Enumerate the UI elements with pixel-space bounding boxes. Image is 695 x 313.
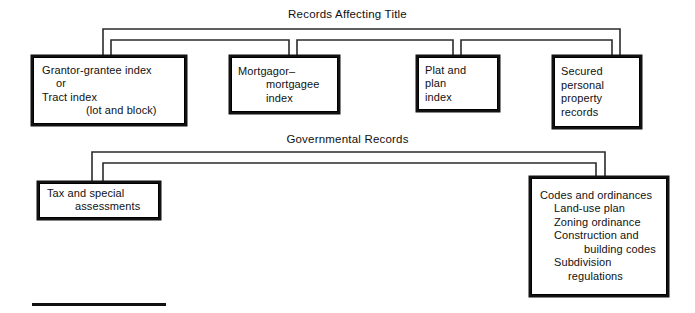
node-line: property: [561, 92, 634, 106]
node-line: Mortgagor–: [238, 64, 332, 78]
node-grantor-grantee-index[interactable]: Grantor-grantee index or Tract index (lo…: [33, 57, 185, 124]
node-codes-and-ordinances[interactable]: Codes and ordinances Land-use plan Zonin…: [531, 178, 667, 295]
node-line: mortgagee: [238, 78, 332, 92]
node-line: records: [561, 106, 634, 120]
node-secured-personal-property-records[interactable]: Secured personal property records: [554, 57, 640, 127]
bracket-bottom-outer: [92, 152, 605, 186]
node-text: Mortgagor– mortgagee index: [238, 64, 332, 105]
diagram-canvas: Records Affecting Title Governmental Rec…: [0, 0, 695, 313]
node-line: plan: [425, 77, 492, 91]
node-text: Codes and ordinances Land-use plan Zonin…: [540, 189, 661, 284]
node-line: building codes: [540, 243, 661, 257]
footer-rule: [32, 303, 166, 306]
bracket-bottom-inner: [103, 163, 596, 186]
node-line: Plat and: [425, 63, 492, 77]
node-line: Tract index: [42, 91, 179, 105]
node-line: assessments: [47, 201, 153, 215]
node-line: Zoning ordinance: [540, 216, 661, 230]
node-mortgagor-mortgagee-index[interactable]: Mortgagor– mortgagee index: [231, 57, 338, 112]
node-line: Construction and: [540, 230, 661, 244]
node-line: Secured: [561, 65, 634, 79]
node-tax-and-special-assessments[interactable]: Tax and special assessments: [39, 183, 159, 218]
node-line: Codes and ordinances: [540, 189, 661, 203]
node-line: regulations: [540, 270, 661, 284]
node-line: (lot and block): [42, 104, 179, 118]
node-line: index: [238, 91, 332, 105]
node-line: Land-use plan: [540, 203, 661, 217]
node-line: Grantor-grantee index: [42, 63, 179, 77]
node-line: index: [425, 90, 492, 104]
node-text: Tax and special assessments: [47, 187, 153, 214]
group-label-records-affecting-title: Records Affecting Title: [0, 9, 695, 21]
node-text: Plat and plan index: [425, 63, 492, 104]
group-label-governmental-records: Governmental Records: [0, 134, 695, 146]
node-plat-and-plan-index[interactable]: Plat and plan index: [418, 57, 498, 110]
node-line: personal: [561, 78, 634, 92]
node-line: or: [42, 77, 179, 91]
node-text: Secured personal property records: [561, 65, 634, 119]
node-line: Tax and special: [47, 187, 153, 201]
bracket-top-outer: [103, 29, 620, 59]
node-line: Subdivision: [540, 257, 661, 271]
node-text: Grantor-grantee index or Tract index (lo…: [42, 63, 179, 117]
